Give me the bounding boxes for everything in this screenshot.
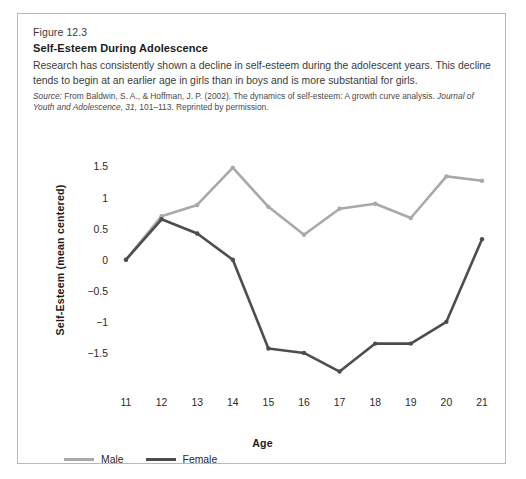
series-line-female <box>126 219 482 371</box>
figure-number: Figure 12.3 <box>33 26 493 38</box>
line-chart: 1.510.50−0.5−1−1.51112131415161718192021 <box>18 142 507 432</box>
data-point <box>124 257 128 261</box>
y-tick-label: 1.5 <box>94 161 109 172</box>
figure-card: Figure 12.3 Self-Esteem During Adolescen… <box>17 13 506 464</box>
legend-item-female: Female <box>146 454 218 465</box>
figure-description: Research has consistently shown a declin… <box>33 59 493 88</box>
data-point <box>373 341 377 345</box>
y-tick-label: −1 <box>96 317 108 328</box>
data-point <box>373 202 377 206</box>
legend-label-female: Female <box>183 454 218 465</box>
source-text-part2: 101–113. Reprinted by permission. <box>137 102 269 112</box>
data-point <box>159 217 163 221</box>
x-tick-label: 21 <box>476 397 488 408</box>
data-point <box>409 216 413 220</box>
x-tick-label: 19 <box>405 397 417 408</box>
data-point <box>480 179 484 183</box>
x-tick-label: 20 <box>441 397 453 408</box>
data-point <box>337 369 341 373</box>
data-point <box>409 341 413 345</box>
data-point <box>480 237 484 241</box>
data-point <box>302 233 306 237</box>
y-tick-label: −0.5 <box>87 286 108 297</box>
figure-screenshot: Figure 12.3 Self-Esteem During Adolescen… <box>0 0 526 479</box>
data-point <box>337 207 341 211</box>
data-point <box>231 165 235 169</box>
data-point <box>266 205 270 209</box>
y-tick-label: 0.5 <box>94 224 109 235</box>
figure-title: Self-Esteem During Adolescence <box>33 42 493 54</box>
y-tick-label: 0 <box>102 255 108 266</box>
data-point <box>195 203 199 207</box>
figure-header: Figure 12.3 Self-Esteem During Adolescen… <box>33 26 493 113</box>
series-line-male <box>126 168 482 260</box>
figure-source: Source: From Baldwin, S. A., & Hoffman, … <box>33 91 493 113</box>
y-axis-title: Self-Esteem (mean centered) <box>54 170 66 350</box>
x-tick-label: 15 <box>263 397 275 408</box>
x-tick-label: 11 <box>121 397 132 408</box>
x-tick-label: 16 <box>298 397 310 408</box>
data-point <box>444 320 448 324</box>
y-tick-label: −1.5 <box>87 348 108 359</box>
chart-legend: Male Female <box>64 454 217 465</box>
data-point <box>444 174 448 178</box>
x-tick-label: 14 <box>227 397 239 408</box>
legend-swatch-female <box>146 458 176 461</box>
legend-label-male: Male <box>101 454 124 465</box>
data-point <box>302 351 306 355</box>
data-point <box>195 231 199 235</box>
x-tick-label: 13 <box>191 397 203 408</box>
x-tick-label: 12 <box>156 397 168 408</box>
x-tick-label: 17 <box>334 397 346 408</box>
source-text-part1: From Baldwin, S. A., & Hoffman, J. P. (2… <box>62 91 437 101</box>
y-tick-label: 1 <box>102 193 108 204</box>
x-axis-title: Age <box>18 437 507 449</box>
x-tick-label: 18 <box>369 397 381 408</box>
legend-item-male: Male <box>64 454 124 465</box>
data-point <box>266 346 270 350</box>
source-label: Source: <box>33 91 62 101</box>
chart-area: 1.510.50−0.5−1−1.51112131415161718192021… <box>18 142 507 465</box>
legend-swatch-male <box>64 458 94 461</box>
data-point <box>231 257 235 261</box>
